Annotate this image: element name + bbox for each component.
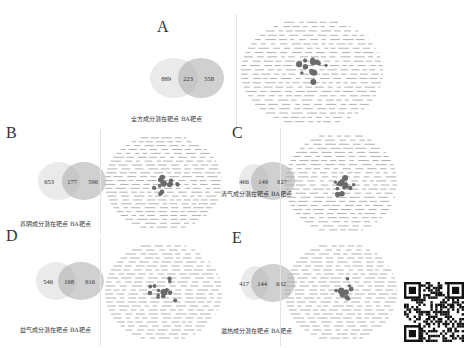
venn-d-left-count: 546 [43,278,53,285]
network-graph-d [100,238,226,346]
venn-a-overlap-count: 223 [183,75,193,82]
panel-label-e: E [232,229,242,247]
venn-diagram-d: 546 168 616 [36,262,108,300]
venn-b-overlap-count: 177 [67,178,77,185]
network-graph-c [280,128,401,238]
venn-b-right-count: 596 [88,178,98,185]
network-b-svg [101,130,226,235]
panel-label-d: D [6,227,18,245]
network-e-svg [281,238,401,346]
venn-e-left-count: 417 [239,280,249,287]
venn-diagram-b: 653 177 596 [38,162,108,200]
venn-e-overlap-count: 144 [257,280,267,287]
qr-code-icon [404,282,464,342]
network-graph-a [236,14,387,130]
venn-a-left-count: 889 [161,75,171,82]
venn-a-caption: 全方成分潜在靶点 BA靶点 [131,114,202,123]
panel-label-c: C [232,124,243,142]
venn-b-left-count: 653 [44,178,54,185]
venn-d-right-count: 616 [85,278,95,285]
venn-b-caption: 养阴成分潜在靶点 BA靶点 [20,219,91,228]
network-graph-e [280,238,401,346]
network-a-svg [237,14,387,130]
venn-a-right-count: 558 [204,75,214,82]
network-graph-b [100,130,226,235]
venn-d-overlap-count: 168 [64,278,74,285]
panel-label-a: A [157,18,169,36]
venn-d-caption: 益气成分潜在靶点 BA靶点 [20,325,91,334]
qr-code-svg [404,282,464,342]
venn-diagram-a: 889 223 558 [150,58,230,98]
network-c-svg [281,128,401,238]
venn-c-overlap-count: 149 [258,178,268,185]
panel-label-b: B [6,124,17,142]
network-d-svg [101,238,226,346]
venn-c-left-count: 466 [239,178,249,185]
